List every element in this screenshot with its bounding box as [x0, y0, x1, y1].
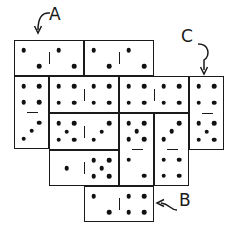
domino-half-4-pips — [155, 151, 190, 188]
pip-dot — [91, 194, 96, 199]
pip-dot — [37, 120, 42, 125]
pip-dot — [72, 64, 77, 69]
pip-dot — [99, 166, 104, 171]
pip-dot — [64, 166, 69, 171]
domino-half-2-pips — [15, 41, 50, 77]
arrow-c-icon — [198, 44, 208, 70]
domino-half-2-pips — [85, 187, 120, 223]
domino-center-divider — [202, 113, 213, 114]
pip-dot — [37, 100, 42, 105]
domino-d10 — [49, 150, 119, 186]
domino-half-4-pips — [120, 187, 155, 223]
domino-half-3-pips — [15, 114, 50, 151]
label-b: B — [179, 190, 191, 210]
pip-dot — [196, 84, 201, 89]
pip-dot — [56, 48, 61, 53]
pip-dot — [161, 157, 166, 162]
pip-dot — [21, 137, 26, 142]
pip-dot — [126, 194, 131, 199]
pip-dot — [107, 64, 112, 69]
domino-center-divider — [84, 162, 85, 174]
pip-dot — [142, 100, 147, 105]
pip-dot — [21, 84, 26, 89]
domino-half-2-pips — [50, 41, 85, 77]
pip-dot — [72, 121, 77, 126]
domino-center-divider — [167, 149, 178, 150]
domino-half-1-pips — [50, 151, 85, 187]
domino-half-2-pips — [85, 41, 120, 77]
domino-center-divider — [154, 89, 155, 101]
pip-dot — [169, 129, 174, 134]
pip-dot — [126, 48, 131, 53]
pip-dot — [107, 210, 112, 215]
pip-dot — [21, 100, 26, 105]
domino-d8 — [119, 113, 154, 186]
domino-half-3-pips — [85, 114, 120, 151]
domino-d6 — [189, 76, 224, 150]
pip-dot — [161, 174, 166, 179]
domino-half-5-pips — [120, 114, 155, 151]
pip-dot — [56, 121, 61, 126]
domino-d1 — [14, 40, 84, 76]
domino-half-4-pips — [50, 77, 85, 114]
pip-dot — [91, 174, 96, 179]
pip-dot — [177, 157, 182, 162]
domino-half-5-pips — [50, 114, 85, 151]
pip-dot — [126, 100, 131, 105]
pip-dot — [91, 158, 96, 163]
domino-d11 — [84, 186, 154, 222]
pip-dot — [161, 100, 166, 105]
pip-dot — [126, 210, 131, 215]
domino-center-divider — [132, 149, 143, 150]
pip-dot — [177, 84, 182, 89]
domino-half-5-pips — [85, 151, 120, 187]
domino-half-4-pips — [120, 77, 155, 114]
pip-dot — [72, 100, 77, 105]
pip-dot — [91, 100, 96, 105]
pip-dot — [56, 84, 61, 89]
pip-dot — [126, 137, 131, 142]
pip-dot — [142, 210, 147, 215]
pip-dot — [72, 84, 77, 89]
pip-dot — [177, 174, 182, 179]
pip-dot — [196, 137, 201, 142]
pip-dot — [37, 84, 42, 89]
domino-center-divider — [119, 52, 120, 64]
pip-dot — [196, 121, 201, 126]
domino-half-4-pips — [190, 77, 225, 114]
domino-half-4-pips — [155, 77, 190, 114]
domino-half-4-pips — [85, 77, 120, 114]
pip-dot — [196, 100, 201, 105]
domino-d7 — [49, 113, 119, 150]
pip-dot — [177, 100, 182, 105]
pip-dot — [107, 100, 112, 105]
pip-dot — [161, 84, 166, 89]
pip-dot — [107, 84, 112, 89]
domino-center-divider — [119, 198, 120, 210]
pip-dot — [21, 48, 26, 53]
pip-dot — [142, 84, 147, 89]
pip-dot — [56, 100, 61, 105]
pip-dot — [212, 137, 217, 142]
domino-center-divider — [84, 126, 85, 138]
domino-d9 — [154, 113, 189, 186]
label-c: C — [181, 26, 193, 46]
domino-d4 — [49, 76, 119, 113]
domino-center-divider — [27, 112, 38, 113]
domino-center-divider — [84, 89, 85, 101]
label-a: A — [49, 4, 61, 24]
pip-dot — [64, 129, 69, 134]
pip-dot — [204, 129, 209, 134]
pip-dot — [126, 121, 131, 126]
pip-dot — [29, 128, 34, 133]
domino-puzzle-diagram: ABC — [0, 0, 240, 234]
pip-dot — [107, 158, 112, 163]
domino-center-divider — [49, 52, 50, 64]
domino-half-2-pips — [120, 41, 155, 77]
pip-dot — [107, 174, 112, 179]
pip-dot — [91, 137, 96, 142]
domino-d5 — [119, 76, 189, 113]
pip-dot — [99, 129, 104, 134]
domino-half-4-pips — [15, 77, 50, 114]
domino-d2 — [84, 40, 154, 76]
